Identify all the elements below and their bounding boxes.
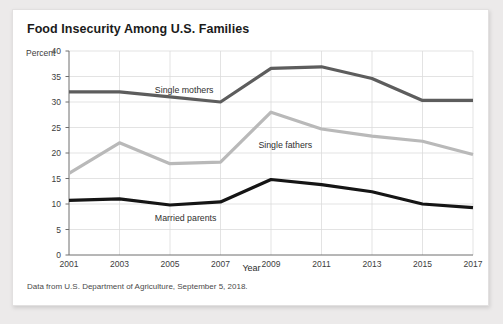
y-axis-tick-label: 30 xyxy=(35,97,61,107)
x-axis-title: Year xyxy=(13,263,490,273)
series-label-married-parents: Married parents xyxy=(155,213,217,223)
y-axis-tick-label: 15 xyxy=(35,174,61,184)
gridlines xyxy=(69,51,473,255)
y-axis-tick-label: 40 xyxy=(35,46,61,56)
series-label-single-fathers: Single fathers xyxy=(258,140,312,150)
chart-card: Food Insecurity Among U.S. Families Perc… xyxy=(12,9,489,306)
y-axis-tick-label: 25 xyxy=(35,123,61,133)
source-note: Data from U.S. Department of Agriculture… xyxy=(27,282,248,291)
series-label-single-mothers: Single mothers xyxy=(155,85,214,95)
y-axis-tick-label: 35 xyxy=(35,72,61,82)
y-axis-tick-label: 5 xyxy=(35,225,61,235)
y-axis-tick-label: 10 xyxy=(35,199,61,209)
y-axis-tick-label: 20 xyxy=(35,148,61,158)
